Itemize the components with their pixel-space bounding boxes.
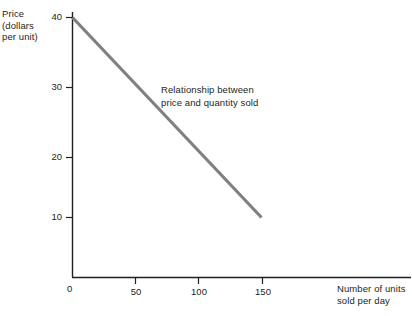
x-tick-label-100: 100: [184, 286, 214, 297]
y-tick-label-40: 40: [36, 11, 62, 22]
x-tick-label-150: 150: [248, 286, 278, 297]
x-tick-label-50: 50: [121, 286, 151, 297]
demand-line: [73, 18, 262, 218]
chart-annotation: Relationship between price and quantity …: [161, 84, 258, 109]
x-axis-title: Number of units sold per day: [337, 283, 406, 306]
y-tick-label-20: 20: [36, 151, 62, 162]
chart-container: Price (dollars per unit) 40 30 20 10 0 5…: [0, 0, 412, 316]
origin-tick-label: 0: [67, 283, 72, 294]
y-tick-label-10: 10: [36, 211, 62, 222]
y-tick-label-30: 30: [36, 81, 62, 92]
